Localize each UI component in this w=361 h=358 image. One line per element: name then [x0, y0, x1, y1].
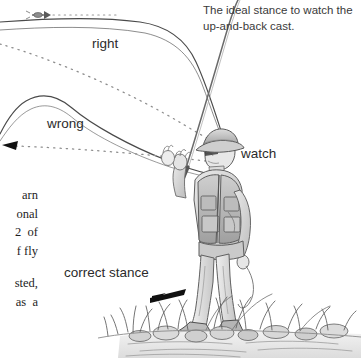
illustration-canvas: The ideal stance to watch the up-and-bac…	[0, 0, 361, 358]
cropped-line: sted,	[0, 274, 38, 293]
fly-casting-illustration	[0, 0, 361, 358]
cropped-line: onal	[0, 205, 38, 224]
caption-text: The ideal stance to watch the up-and-bac…	[203, 3, 355, 35]
label-watch: watch	[241, 146, 276, 162]
cropped-line: arn	[0, 186, 38, 205]
label-correct-stance: correct stance	[64, 265, 149, 281]
label-wrong: wrong	[47, 116, 84, 132]
cropped-line: f fly	[0, 242, 38, 261]
cropped-line: as a	[0, 293, 38, 312]
cropped-body-text-block-one: arn onal 2 of f fly	[0, 186, 38, 260]
cropped-line: 2 of	[0, 223, 38, 242]
label-right: right	[92, 36, 118, 52]
cropped-body-text-block-two: sted, as a	[0, 274, 38, 311]
